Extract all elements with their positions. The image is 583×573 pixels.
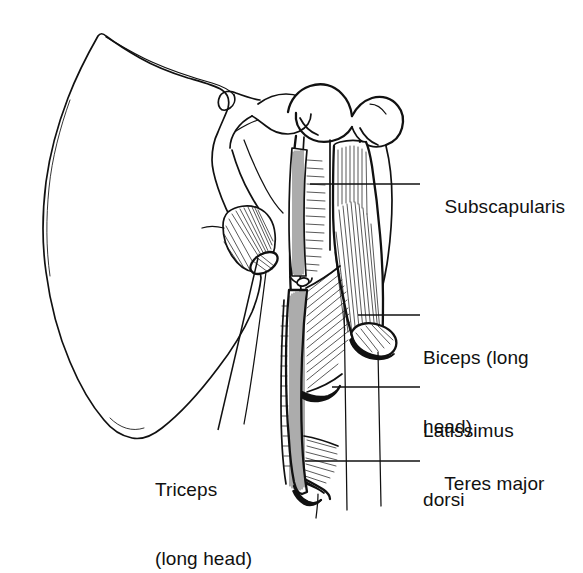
label-subscapularis-line-1: Subscapularis — [445, 196, 566, 217]
greater-tubercle — [360, 104, 386, 145]
label-latissimus-dorsi-line-1: Latissimus — [423, 419, 514, 442]
label-subscapularis: Subscapularis — [423, 172, 565, 241]
label-teres-major: Teres major — [423, 449, 545, 518]
label-triceps-long-head-line-2: (long head) — [155, 547, 252, 570]
label-teres-major-line-1: Teres major — [444, 473, 544, 494]
label-triceps-long-head-line-1: Triceps — [155, 478, 252, 501]
biceps-belly — [333, 141, 396, 360]
label-triceps-long-head: Triceps (long head) — [155, 432, 252, 573]
subscapularis-insertion — [289, 148, 325, 287]
label-biceps-long-head-line-1: Biceps (long — [423, 346, 529, 369]
